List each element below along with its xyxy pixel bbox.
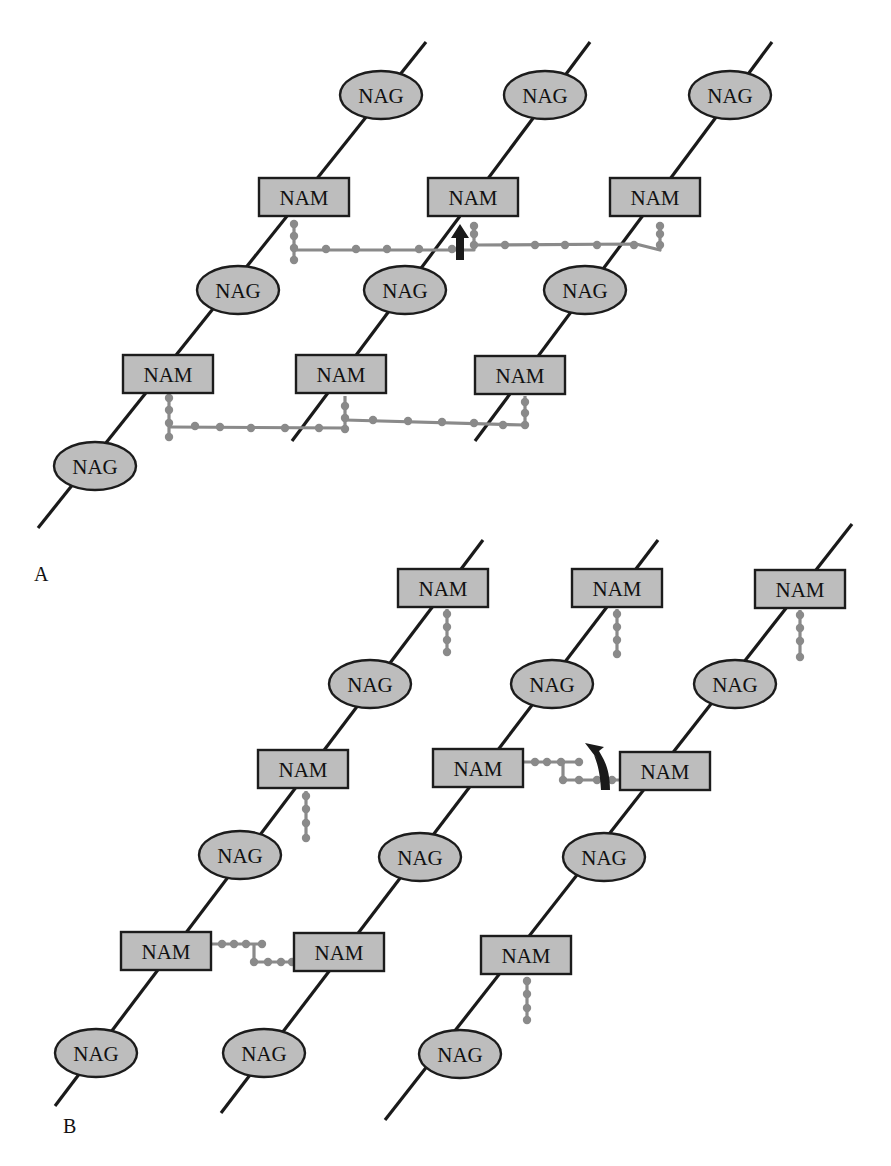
amino-acid-dot — [322, 245, 330, 253]
peptidoglycan-diagram: NAGNAGNAGNAMNAMNAMNAGNAGNAGNAMNAMNAMNAG … — [0, 0, 891, 1166]
nam-residue: NAM — [475, 356, 565, 394]
residue-label: NAM — [279, 186, 328, 210]
amino-acid-dot — [218, 940, 226, 948]
nag-residue: NAG — [689, 71, 771, 119]
amino-acid-dot — [281, 424, 289, 432]
amino-acid-dot — [531, 241, 539, 249]
nam-residue: NAM — [398, 569, 488, 607]
nag-residue: NAG — [419, 1030, 501, 1078]
amino-acid-dot — [258, 940, 266, 948]
amino-acid-dot — [523, 1004, 531, 1012]
residue-label: NAG — [73, 1042, 119, 1066]
amino-acid-dot — [523, 990, 531, 998]
amino-acid-dot — [656, 230, 664, 238]
amino-acid-dot — [191, 422, 199, 430]
residue-label: NAM — [278, 758, 327, 782]
nam-residue: NAM — [572, 569, 662, 607]
residue-label: NAG — [707, 84, 753, 108]
residue-label: NAG — [72, 455, 118, 479]
residue-label: NAM — [143, 363, 192, 387]
residue-label: NAG — [581, 846, 627, 870]
residue-label: NAM — [775, 578, 824, 602]
amino-acid-dot — [438, 418, 446, 426]
nag-residue: NAG — [511, 660, 593, 708]
amino-acid-dot — [165, 433, 173, 441]
residue-label: NAM — [448, 186, 497, 210]
residue-label: NAM — [316, 363, 365, 387]
amino-acid-dot — [559, 776, 567, 784]
nam-residue: NAM — [433, 749, 523, 787]
nam-residue: NAM — [755, 570, 845, 608]
residue-label: NAG — [215, 279, 261, 303]
nam-residue: NAM — [123, 355, 213, 393]
amino-acid-dot — [264, 958, 272, 966]
nam-residue: NAM — [428, 178, 518, 216]
amino-acid-dot — [575, 776, 583, 784]
amino-acid-dot — [557, 758, 565, 766]
nag-residue: NAG — [364, 266, 446, 314]
amino-acid-dot — [523, 1016, 531, 1024]
amino-acid-dot — [230, 940, 238, 948]
residue-label: NAG — [562, 279, 608, 303]
amino-acid-dot — [165, 394, 173, 402]
amino-acid-dot — [315, 424, 323, 432]
amino-acid-dot — [521, 421, 529, 429]
residue-label: NAM — [314, 941, 363, 965]
amino-acid-dot — [523, 977, 531, 985]
amino-acid-dot — [448, 245, 456, 253]
amino-acid-dot — [470, 230, 478, 238]
amino-acid-dot — [290, 232, 298, 240]
nag-residue: NAG — [340, 71, 422, 119]
amino-acid-dot — [521, 409, 529, 417]
amino-acid-dot — [302, 792, 310, 800]
residue-label: NAG — [529, 673, 575, 697]
nag-residue: NAG — [504, 71, 586, 119]
amino-acid-dot — [796, 653, 804, 661]
residue-label: NAM — [630, 186, 679, 210]
residue-label: NAM — [418, 577, 467, 601]
amino-acid-dot — [415, 245, 423, 253]
glycan-strand — [55, 540, 483, 1106]
nam-residue: NAM — [620, 752, 710, 790]
amino-acid-dot — [369, 416, 377, 424]
amino-acid-dot — [470, 419, 478, 427]
amino-acid-dot — [630, 241, 638, 249]
amino-acid-dot — [543, 758, 551, 766]
amino-acid-dot — [470, 222, 478, 230]
amino-acid-dot — [521, 398, 529, 406]
sugar-residues: NAMNAMNAMNAGNAGNAGNAMNAMNAMNAGNAGNAGNAMN… — [55, 569, 845, 1078]
amino-acid-dot — [501, 241, 509, 249]
residue-label: NAG — [217, 844, 263, 868]
residue-label: NAM — [495, 364, 544, 388]
nam-residue: NAM — [121, 932, 211, 970]
amino-acid-dot — [613, 610, 621, 618]
transpeptidase-arrow-icon — [451, 224, 469, 260]
amino-acid-dot — [613, 623, 621, 631]
residue-label: NAG — [382, 279, 428, 303]
arrow-up-icon — [451, 224, 469, 260]
amino-acid-dot — [656, 222, 664, 230]
amino-acid-dot — [613, 650, 621, 658]
amino-acid-dot — [796, 637, 804, 645]
amino-acid-dot — [302, 819, 310, 827]
amino-acid-dot — [242, 940, 250, 948]
amino-acid-dot — [302, 834, 310, 842]
residue-label: NAM — [453, 757, 502, 781]
nam-residue: NAM — [294, 933, 384, 971]
residue-label: NAG — [712, 673, 758, 697]
amino-acid-dot — [250, 958, 258, 966]
panel-label-a: A — [34, 563, 48, 586]
amino-acid-dot — [796, 611, 804, 619]
residue-label: NAG — [241, 1042, 287, 1066]
nag-residue: NAG — [199, 831, 281, 879]
nag-residue: NAG — [694, 660, 776, 708]
residue-label: NAG — [522, 84, 568, 108]
nag-residue: NAG — [197, 266, 279, 314]
nag-residue: NAG — [54, 442, 136, 490]
amino-acid-dot — [290, 256, 298, 264]
amino-acid-dot — [593, 241, 601, 249]
amino-acid-dot — [341, 425, 349, 433]
residue-label: NAG — [397, 846, 443, 870]
nag-residue: NAG — [544, 266, 626, 314]
residue-label: NAM — [592, 577, 641, 601]
